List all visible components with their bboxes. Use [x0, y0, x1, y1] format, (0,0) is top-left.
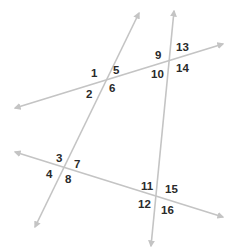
angle-label-10: 10	[151, 68, 164, 80]
transversal-angles-diagram: 12569101314347811121516	[0, 0, 235, 252]
line-lower	[15, 152, 223, 217]
transversal-left	[35, 13, 139, 227]
angle-label-11: 11	[141, 180, 154, 192]
angle-label-1: 1	[91, 67, 98, 79]
angle-label-5: 5	[113, 64, 120, 76]
angle-label-2: 2	[86, 88, 92, 100]
angle-label-6: 6	[109, 82, 115, 94]
angle-label-7: 7	[74, 158, 80, 170]
angle-label-9: 9	[155, 49, 161, 61]
angle-label-12: 12	[138, 198, 151, 210]
angle-label-4: 4	[46, 168, 53, 180]
angle-label-14: 14	[176, 62, 189, 74]
lines-layer	[15, 11, 223, 246]
angle-label-8: 8	[65, 173, 72, 185]
angle-label-15: 15	[165, 183, 178, 195]
angle-label-16: 16	[161, 204, 174, 216]
angle-label-3: 3	[56, 152, 62, 164]
angle-label-13: 13	[176, 41, 189, 53]
